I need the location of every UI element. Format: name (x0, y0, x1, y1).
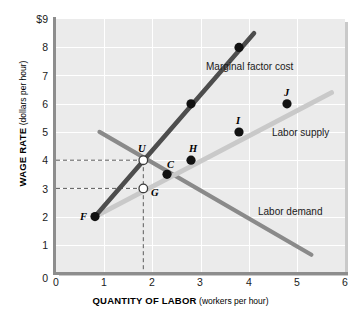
point-label-J: J (284, 87, 289, 98)
labor-demand-curve (100, 132, 312, 255)
data-point-H (186, 156, 195, 165)
chart-canvas (0, 0, 361, 314)
data-point-F (90, 212, 99, 221)
data-point-I (234, 127, 243, 136)
data-point-G (139, 184, 148, 193)
data-point-mfc-4-8 (234, 43, 243, 52)
point-label-F: F (80, 211, 87, 222)
annotation-labor-supply: Labor supply (272, 127, 329, 138)
point-label-U: U (138, 143, 146, 154)
point-label-H: H (189, 143, 197, 154)
annotation-labor-demand: Labor demand (258, 206, 323, 217)
chart-figure: $9 8 7 6 5 4 3 2 1 0 0 1 2 3 4 5 6 WAGE … (0, 0, 361, 314)
point-label-I: I (236, 115, 240, 126)
data-point-C (162, 170, 171, 179)
data-point-U (139, 156, 148, 165)
data-point-J (282, 99, 291, 108)
point-label-C: C (167, 159, 174, 170)
point-label-G: G (151, 187, 159, 198)
annotation-marginal-factor-cost: Marginal factor cost (206, 61, 293, 72)
data-point-mfc-3-6 (186, 99, 195, 108)
